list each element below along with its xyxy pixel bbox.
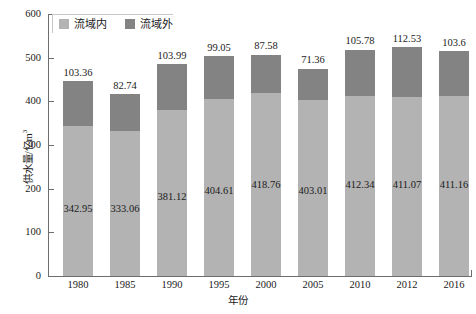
bar-segment-inside-basin[interactable]: 411.16 xyxy=(439,96,469,276)
y-axis-tick-label: 400 xyxy=(25,96,41,107)
y-axis-tick-label: 200 xyxy=(25,183,41,194)
bar-segment-inside-basin[interactable]: 381.12 xyxy=(157,110,187,276)
y-axis-tick-mark xyxy=(49,101,54,102)
bar-inner-value-label: 412.34 xyxy=(346,180,375,191)
legend-item[interactable]: 流域内 xyxy=(59,19,107,30)
bar-group[interactable]: 105.78412.34 xyxy=(345,50,375,276)
bar-segment-inside-basin[interactable]: 412.34 xyxy=(345,96,375,276)
bar-inner-value-label: 403.01 xyxy=(299,186,328,197)
bar-group[interactable]: 71.36403.01 xyxy=(298,69,328,276)
bar-top-value-label: 82.74 xyxy=(113,81,137,92)
bar-top-value-label: 71.36 xyxy=(301,55,325,66)
legend-item[interactable]: 流域外 xyxy=(125,19,173,30)
y-axis-title-exponent: 3 xyxy=(21,130,29,134)
legend-swatch-icon xyxy=(125,19,135,29)
bar-segment-inside-basin[interactable]: 411.07 xyxy=(392,97,422,277)
bar-inner-value-label: 418.76 xyxy=(252,180,281,191)
bar-group[interactable]: 82.74333.06 xyxy=(110,94,140,276)
x-axis-tick-label: 1995 xyxy=(197,280,241,291)
y-axis-tick-label: 500 xyxy=(25,52,41,63)
legend-swatch-icon xyxy=(59,19,69,29)
bar-segment-outside-basin[interactable]: 82.74 xyxy=(110,94,140,130)
legend: 流域内流域外 xyxy=(52,14,173,33)
bar-segment-outside-basin[interactable]: 112.53 xyxy=(392,47,422,96)
bar-segment-inside-basin[interactable]: 342.95 xyxy=(63,126,93,276)
bar-group[interactable]: 112.53411.07 xyxy=(392,47,422,276)
x-axis-tick-label: 2010 xyxy=(338,280,382,291)
x-axis-tick-label: 1985 xyxy=(103,280,147,291)
bar-inner-value-label: 411.07 xyxy=(393,180,422,191)
bar-inner-value-label: 333.06 xyxy=(111,204,140,215)
y-axis-tick-label: 100 xyxy=(25,227,41,238)
bar-top-value-label: 103.36 xyxy=(64,68,93,79)
y-axis-tick-mark xyxy=(49,276,54,277)
x-axis-tick-label: 2000 xyxy=(244,280,288,291)
bar-group[interactable]: 103.36342.95 xyxy=(63,81,93,276)
x-axis-tick-label: 2005 xyxy=(291,280,335,291)
bar-inner-value-label: 381.12 xyxy=(158,192,187,203)
bar-segment-inside-basin[interactable]: 403.01 xyxy=(298,100,328,276)
bar-inner-value-label: 342.95 xyxy=(64,204,93,215)
x-axis-line xyxy=(48,276,472,277)
bar-top-value-label: 103.6 xyxy=(442,38,466,49)
bar-segment-inside-basin[interactable]: 418.76 xyxy=(251,93,281,276)
supply-water-stacked-bar-chart: 供水量/亿m3 0100200300400500600 103.36342.95… xyxy=(0,0,476,314)
x-axis-tick-label: 2012 xyxy=(385,280,429,291)
bar-segment-outside-basin[interactable]: 103.36 xyxy=(63,81,93,126)
bar-group[interactable]: 99.05404.61 xyxy=(204,56,234,276)
y-axis-tick-mark xyxy=(49,189,54,190)
bar-segment-inside-basin[interactable]: 333.06 xyxy=(110,131,140,276)
x-axis-title: 年份 xyxy=(0,292,476,307)
y-axis-tick-label: 0 xyxy=(36,271,41,282)
bar-segment-outside-basin[interactable]: 103.6 xyxy=(439,51,469,96)
bar-segment-outside-basin[interactable]: 99.05 xyxy=(204,56,234,99)
bar-group[interactable]: 87.58418.76 xyxy=(251,55,281,276)
bar-segment-outside-basin[interactable]: 71.36 xyxy=(298,69,328,100)
x-axis-tick-label: 1980 xyxy=(56,280,100,291)
plot-area: 0100200300400500600 103.36342.9582.74333… xyxy=(48,14,472,277)
x-axis-tick-label: 2016 xyxy=(432,280,476,291)
y-axis-tick-mark xyxy=(49,58,54,59)
bar-group[interactable]: 103.99381.12 xyxy=(157,64,187,276)
bar-segment-outside-basin[interactable]: 87.58 xyxy=(251,55,281,93)
x-axis-end-cap xyxy=(471,270,472,277)
bar-inner-value-label: 404.61 xyxy=(205,186,234,197)
bar-top-value-label: 99.05 xyxy=(207,43,231,54)
bar-top-value-label: 112.53 xyxy=(393,34,422,45)
bar-inner-value-label: 411.16 xyxy=(440,180,469,191)
y-axis-tick-label: 300 xyxy=(25,140,41,151)
bar-top-value-label: 87.58 xyxy=(254,41,278,52)
bar-segment-inside-basin[interactable]: 404.61 xyxy=(204,99,234,276)
bar-top-value-label: 105.78 xyxy=(346,36,375,47)
y-axis-tick-mark xyxy=(49,232,54,233)
bar-segment-outside-basin[interactable]: 103.99 xyxy=(157,64,187,109)
y-axis-tick-label: 600 xyxy=(25,9,41,20)
legend-label: 流域内 xyxy=(74,19,107,30)
bar-top-value-label: 103.99 xyxy=(158,51,187,62)
legend-label: 流域外 xyxy=(140,19,173,30)
bar-segment-outside-basin[interactable]: 105.78 xyxy=(345,50,375,96)
bar-group[interactable]: 103.6411.16 xyxy=(439,51,469,276)
y-axis-tick-mark xyxy=(49,145,54,146)
x-axis-tick-label: 1990 xyxy=(150,280,194,291)
